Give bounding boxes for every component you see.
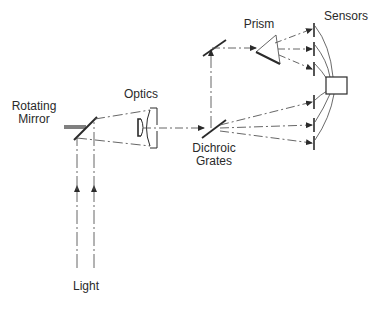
prism-label: Prism — [239, 18, 279, 31]
optics-label: Optics — [118, 88, 164, 101]
rotating-mirror-label: Rotating Mirror — [4, 100, 64, 126]
prism — [256, 35, 280, 64]
dichroic-grates — [202, 120, 226, 138]
prism-output-beams — [275, 29, 312, 69]
dichroic-label-line2: Grates — [186, 155, 242, 168]
rotating-mirror-label-line2: Mirror — [4, 113, 64, 126]
mirror-to-optics-beams — [77, 110, 150, 146]
rotating-mirror — [64, 117, 97, 140]
light-rays — [77, 122, 94, 268]
dichroic-grates-label: Dichroic Grates — [186, 142, 242, 168]
dichroic-output-beams — [220, 102, 312, 143]
light-label: Light — [68, 280, 104, 293]
sensors-label: Sensors — [318, 10, 374, 23]
processor-box — [326, 77, 347, 94]
